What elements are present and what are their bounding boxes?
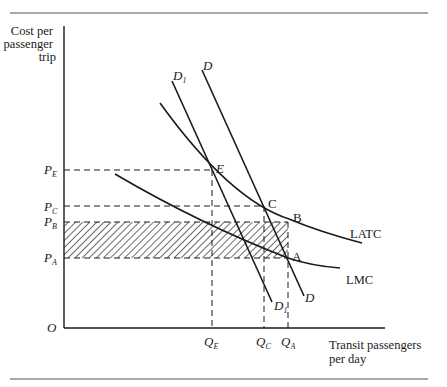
- demand-label-d1-bottom: D1: [273, 298, 287, 315]
- point-label-e: E: [215, 161, 224, 176]
- price-label-pa: PA: [43, 250, 57, 267]
- quantity-label-qc: QC: [256, 334, 271, 351]
- point-label-b: B: [293, 210, 302, 225]
- x-axis-label: Transit passengers per day: [329, 338, 424, 366]
- demand-label-d1-top: D1: [172, 68, 186, 85]
- lmc-label: LMC: [346, 273, 373, 287]
- quantity-label-qe: QE: [204, 334, 218, 351]
- origin-label: O: [47, 320, 57, 335]
- economics-diagram: Cost per passenger trip Transit passenge…: [0, 0, 447, 387]
- demand-label-d-top: D: [202, 58, 213, 73]
- y-axis-label: Cost per passenger trip: [4, 24, 56, 64]
- point-label-a: A: [292, 249, 302, 264]
- price-label-pe: PE: [43, 162, 57, 179]
- quantity-label-qa: QA: [281, 334, 295, 351]
- latc-label: LATC: [350, 227, 381, 241]
- shaded-loss-region: [64, 222, 288, 258]
- point-label-c: C: [268, 196, 277, 211]
- demand-label-d-bottom: D: [304, 290, 315, 305]
- price-label-pb: PB: [43, 214, 57, 231]
